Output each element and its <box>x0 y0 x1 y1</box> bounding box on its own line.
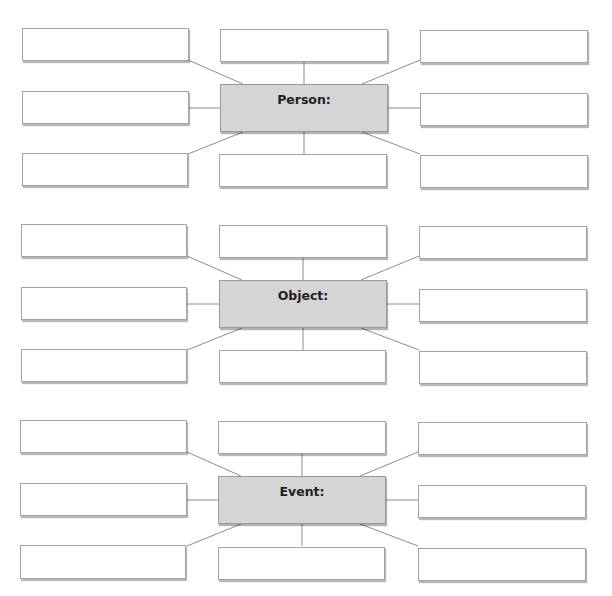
person-box-bottom-center[interactable] <box>219 154 387 187</box>
object-center-label: Object: <box>220 288 386 303</box>
object-box-top-center[interactable] <box>219 225 387 258</box>
event-organizer: Event: <box>0 400 612 570</box>
object-organizer: Object: <box>0 204 612 374</box>
object-box-mid-left[interactable] <box>21 287 187 320</box>
object-center-box: Object: <box>219 280 387 328</box>
object-box-top-left[interactable] <box>21 224 187 257</box>
event-box-mid-left[interactable] <box>20 483 187 516</box>
person-center-box: Person: <box>220 84 388 132</box>
person-box-bottom-right[interactable] <box>420 155 588 188</box>
person-box-top-left[interactable] <box>22 28 189 61</box>
event-box-bottom-center[interactable] <box>218 547 385 580</box>
event-center-label: Event: <box>219 484 385 499</box>
person-center-label: Person: <box>221 92 387 107</box>
event-center-box: Event: <box>218 476 386 524</box>
event-box-top-right[interactable] <box>418 422 587 455</box>
person-organizer: Person: <box>0 8 612 178</box>
person-box-top-center[interactable] <box>220 29 388 62</box>
event-box-top-center[interactable] <box>218 421 386 454</box>
event-box-mid-right[interactable] <box>418 485 586 518</box>
object-box-bottom-left[interactable] <box>21 349 187 382</box>
object-box-mid-right[interactable] <box>419 289 587 322</box>
person-box-mid-left[interactable] <box>22 91 189 124</box>
object-box-bottom-right[interactable] <box>419 351 587 384</box>
person-box-bottom-left[interactable] <box>22 153 188 186</box>
event-box-bottom-left[interactable] <box>20 545 186 579</box>
object-box-bottom-center[interactable] <box>219 350 386 383</box>
person-box-mid-right[interactable] <box>420 93 588 126</box>
event-box-top-left[interactable] <box>20 420 187 453</box>
object-box-top-right[interactable] <box>419 226 587 259</box>
person-box-top-right[interactable] <box>420 30 588 63</box>
event-box-bottom-right[interactable] <box>418 548 586 581</box>
